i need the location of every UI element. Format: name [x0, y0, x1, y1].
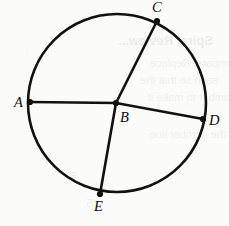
- segment-be: [100, 103, 116, 194]
- point-dot-a: [27, 99, 33, 105]
- point-dot-b: [113, 100, 119, 106]
- point-dot-c: [154, 18, 160, 24]
- point-dot-d: [200, 116, 206, 122]
- point-label-b: B: [120, 110, 129, 125]
- point-dot-e: [97, 191, 103, 197]
- figure-canvas: Spiral Review...to compare. Replaceeach …: [0, 0, 229, 226]
- segment-bd: [116, 103, 203, 119]
- circle-diagram: [0, 0, 229, 226]
- point-label-e: E: [94, 199, 103, 214]
- segment-ab: [30, 102, 116, 103]
- point-label-c: C: [152, 0, 162, 15]
- segment-cb: [116, 21, 157, 103]
- point-label-a: A: [14, 95, 23, 110]
- point-label-d: D: [209, 113, 219, 128]
